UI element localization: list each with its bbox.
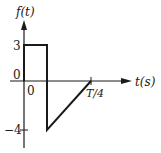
y-axis-label: f(t) [15, 5, 35, 19]
x-axis-arrow-icon [121, 78, 132, 84]
x-axis-label: t(s) [135, 75, 156, 89]
y-axis-arrow-icon [21, 20, 27, 30]
y-tick-label-neg4: −4 [4, 123, 22, 137]
y-tick-label-3: 3 [13, 39, 21, 53]
y-tick-label-0: 0 [13, 68, 21, 82]
waveform-chart: f(t) 3 0 −4 0 T/4 t(s) [0, 0, 161, 153]
x-tick-label-0: 0 [27, 84, 35, 98]
x-tick-label-T4: T/4 [86, 87, 104, 100]
